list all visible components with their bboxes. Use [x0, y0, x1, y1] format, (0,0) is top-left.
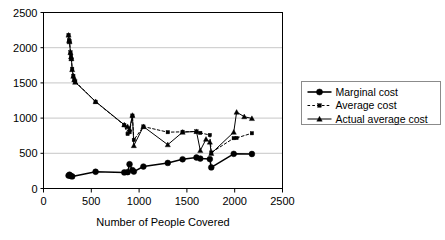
x-tick-label: 1000	[127, 195, 151, 207]
data-point-circle	[316, 89, 322, 95]
series-1	[66, 151, 255, 179]
data-point-circle	[127, 161, 133, 167]
data-point-circle	[93, 169, 99, 175]
chart-figure: 05001000150020002500 0500100015002000250…	[0, 0, 445, 240]
data-point-small-square	[166, 130, 169, 133]
y-tick-label: 0	[31, 183, 37, 195]
data-point-small-square	[199, 131, 202, 134]
y-tick-label: 2000	[13, 42, 37, 54]
series-lines	[66, 32, 255, 179]
data-point-circle	[197, 156, 203, 162]
axis-ticks	[41, 13, 283, 193]
data-point-triangle	[131, 143, 136, 148]
data-point-small-square	[235, 136, 238, 139]
x-axis-tick-labels: 05001000150020002500	[40, 195, 294, 207]
y-tick-label: 500	[19, 147, 37, 159]
chart-container: 05001000150020002500 0500100015002000250…	[0, 0, 445, 240]
x-tick-label: 0	[40, 195, 46, 207]
series-3	[66, 32, 255, 155]
grid-lines	[44, 13, 283, 154]
x-tick-label: 2500	[270, 195, 294, 207]
data-point-circle	[180, 156, 186, 162]
x-axis-title: Number of People Covered	[96, 216, 229, 228]
data-point-circle	[249, 151, 255, 157]
data-point-circle	[165, 160, 171, 166]
legend: Marginal costAverage costActual average …	[302, 82, 441, 125]
legend-label: Actual average cost	[336, 113, 428, 125]
data-point-triangle	[234, 110, 239, 115]
data-point-circle	[141, 164, 147, 170]
y-tick-label: 2500	[13, 7, 37, 19]
data-point-circle	[69, 173, 75, 179]
data-point-circle	[131, 169, 137, 175]
y-tick-label: 1000	[13, 112, 37, 124]
data-point-triangle	[231, 130, 236, 135]
y-axis-tick-labels: 05001000150020002500	[13, 7, 37, 195]
plot-area-border	[44, 13, 283, 189]
legend-label: Marginal cost	[336, 86, 399, 98]
data-point-small-square	[208, 133, 211, 136]
series-line	[69, 35, 252, 153]
series-2	[67, 33, 254, 154]
x-tick-label: 2000	[222, 195, 246, 207]
data-point-circle	[207, 156, 213, 162]
data-point-small-square	[250, 132, 253, 135]
data-point-triangle	[198, 148, 203, 153]
data-point-triangle	[203, 137, 208, 142]
data-point-circle	[231, 151, 237, 157]
x-tick-label: 500	[82, 195, 100, 207]
plot-frame	[44, 13, 283, 189]
data-point-triangle	[242, 114, 247, 119]
x-tick-label: 1500	[175, 195, 199, 207]
series-line	[69, 35, 252, 153]
data-point-circle	[208, 164, 214, 170]
data-point-small-square	[318, 104, 322, 108]
y-tick-label: 1500	[13, 77, 37, 89]
legend-label: Average cost	[336, 99, 397, 111]
